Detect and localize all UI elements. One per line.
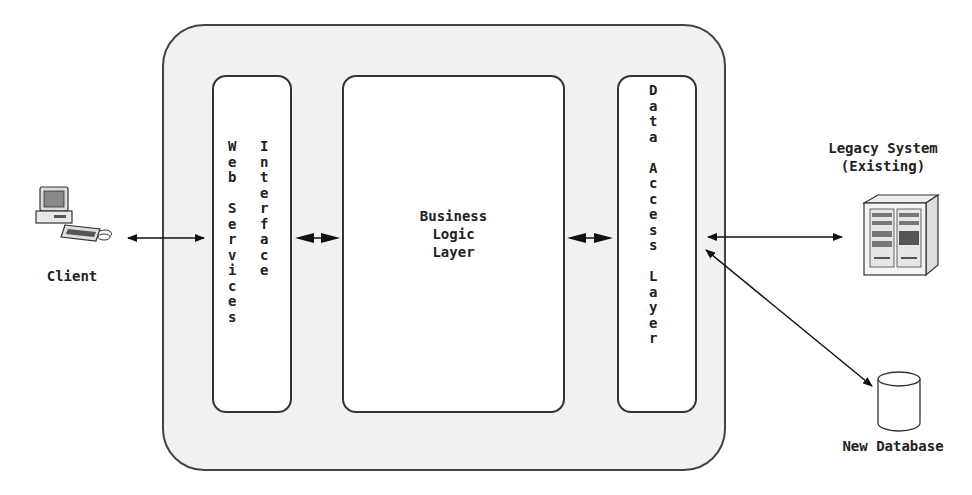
arrow-wsi-to-bll — [295, 233, 340, 243]
connector-arrows — [0, 0, 972, 495]
arrow-bll-to-dal — [567, 233, 613, 243]
arrow-dal-to-database — [706, 250, 872, 386]
